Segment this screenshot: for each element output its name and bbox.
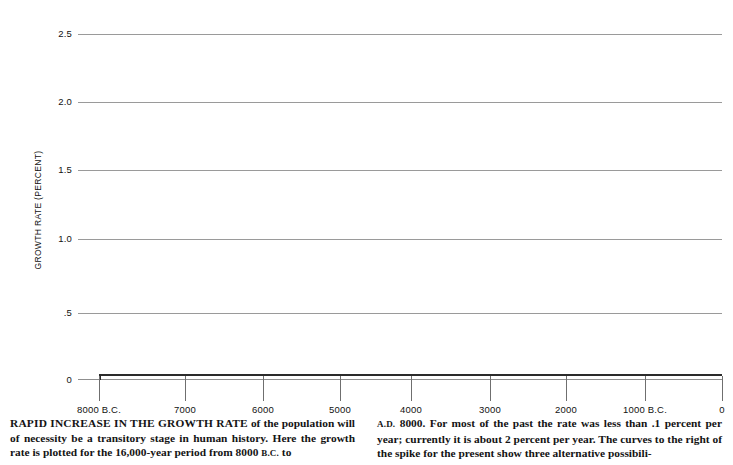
y-tick-label-2-5: 2.5: [36, 28, 72, 39]
gridline-zero-baseline: [78, 379, 722, 380]
caption-lead-in: RAPID INCREASE IN THE GROWTH RATE: [10, 417, 248, 429]
x-tick-4000: [411, 376, 412, 401]
x-tick-label-1000bc: 1000 B.C.: [623, 404, 667, 415]
x-tick-2000: [566, 376, 567, 401]
x-tick-label-2000: 2000: [555, 404, 577, 415]
x-tick-label-6000: 6000: [252, 404, 274, 415]
gridline-1-0: [78, 239, 722, 240]
figure-caption: RAPID INCREASE IN THE GROWTH RATE of the…: [0, 416, 733, 465]
x-tick-0: [722, 376, 723, 401]
x-tick-7000: [185, 376, 186, 401]
x-tick-label-7000: 7000: [174, 404, 196, 415]
gridline-2-0: [78, 102, 722, 103]
y-tick-label-0: 0: [36, 374, 72, 385]
x-tick-5000: [340, 376, 341, 401]
x-tick-label-0: 0: [719, 404, 724, 415]
x-tick-label-8000bc: 8000 B.C.: [77, 404, 121, 415]
gridline-0-5: [78, 313, 722, 314]
x-tick-1000bc: [645, 376, 646, 401]
caption-bc-abbrev: B.C.: [261, 448, 279, 458]
caption-right-body: 8000. For most of the past the rate was …: [377, 417, 722, 459]
y-tick-label-0-5: .5: [36, 307, 72, 318]
gridline-2-5: [78, 34, 722, 35]
x-tick-3000: [490, 376, 491, 401]
growth-rate-chart: GROWTH RATE (PERCENT) 2.5 2.0 1.5 1.0 .5…: [0, 0, 733, 416]
x-tick-label-3000: 3000: [479, 404, 501, 415]
x-tick-label-4000: 4000: [400, 404, 422, 415]
caption-column-right: A.D. 8000. For most of the past the rate…: [377, 416, 722, 465]
y-tick-label-1-5: 1.5: [36, 164, 72, 175]
y-tick-label-1-0: 1.0: [36, 233, 72, 244]
x-tick-label-5000: 5000: [329, 404, 351, 415]
caption-left-body-2: to: [279, 446, 291, 458]
gridline-1-5: [78, 170, 722, 171]
x-tick-6000: [263, 376, 264, 401]
caption-column-left: RAPID INCREASE IN THE GROWTH RATE of the…: [10, 416, 355, 465]
caption-ad-abbrev: A.D.: [377, 419, 395, 429]
x-tick-8000bc: [99, 376, 100, 401]
y-axis-title: GROWTH RATE (PERCENT): [33, 110, 43, 310]
y-tick-label-2-0: 2.0: [36, 96, 72, 107]
